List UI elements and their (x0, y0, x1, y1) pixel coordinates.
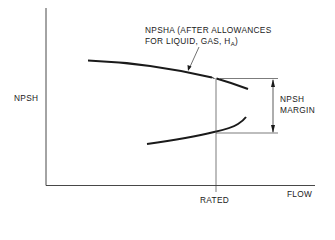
x-axis-label: FLOW (287, 189, 312, 200)
npsha-curve-left (88, 61, 212, 78)
npsha-leader-line (189, 47, 199, 69)
margin-label-line2: MARGIN (280, 105, 315, 116)
npshr-curve (147, 117, 246, 144)
margin-arrow-up-icon (271, 79, 275, 87)
npsha-leader-arrow-icon (188, 65, 192, 71)
margin-arrow-down-icon (271, 125, 275, 133)
npsha-label-line2-prefix: FOR LIQUID, GAS, H (145, 36, 231, 46)
npsha-label-line2: FOR LIQUID, GAS, HA) (145, 36, 238, 50)
margin-label-line1: NPSH (280, 94, 304, 105)
y-axis-label: NPSH (14, 93, 38, 104)
npsha-break-tick (212, 78, 215, 79)
npsha-label-suffix: ) (235, 36, 238, 46)
rated-label: RATED (200, 195, 229, 206)
npsha-label-line1: NPSHA (AFTER ALLOWANCES (145, 25, 271, 36)
npsha-curve-right (217, 79, 249, 90)
